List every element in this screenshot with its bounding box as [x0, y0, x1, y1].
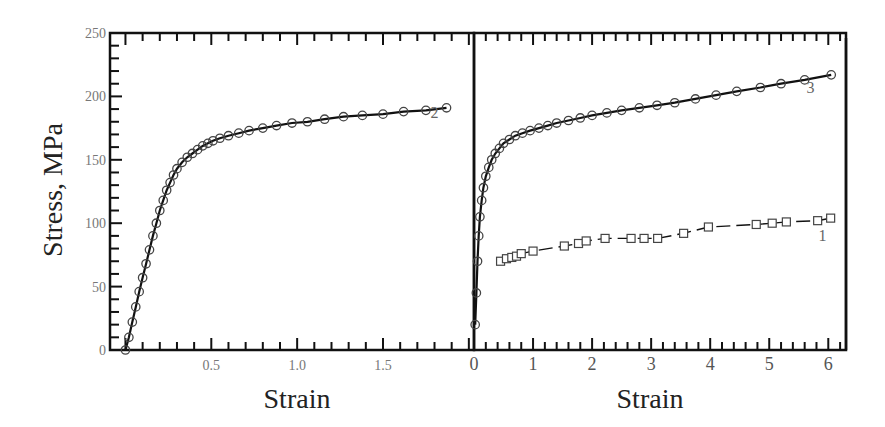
x-axis-title-left: Strain [264, 383, 331, 414]
x-tick-label: 5 [765, 354, 774, 374]
x-tick-label: 0 [470, 354, 479, 374]
y-axis-title: Stress, MPa [37, 123, 68, 257]
curve-label: 2 [431, 104, 439, 121]
x-tick-label: 0.5 [203, 358, 221, 373]
curve-label: 1 [818, 227, 826, 244]
data-point [680, 229, 688, 237]
x-tick-label: 2 [588, 354, 597, 374]
data-point [782, 218, 790, 226]
y-tick-label: 100 [85, 216, 106, 231]
data-point [654, 234, 662, 242]
left-panel: 0501001502002500.51.01.52 [85, 26, 474, 373]
data-point [517, 250, 525, 258]
data-point [640, 234, 648, 242]
x-tick-label: 3 [647, 354, 656, 374]
right-panel: 012345631 [470, 33, 847, 374]
data-point [814, 217, 822, 225]
y-tick-label: 150 [85, 153, 106, 168]
curve-label: 3 [807, 79, 815, 96]
x-tick-label: 1 [529, 354, 538, 374]
data-point [601, 234, 609, 242]
x-tick-label: 4 [706, 354, 715, 374]
data-point [560, 242, 568, 250]
x-tick-label: 6 [824, 354, 833, 374]
data-point [827, 214, 835, 222]
curve-2 [126, 108, 447, 350]
data-point [704, 223, 712, 231]
y-tick-label: 50 [92, 280, 106, 295]
x-tick-label: 1.0 [288, 358, 306, 373]
data-point [768, 219, 776, 227]
data-point [752, 220, 760, 228]
data-point [582, 237, 590, 245]
data-point [575, 239, 583, 247]
plot-frame [110, 33, 474, 350]
curve-1 [501, 218, 831, 261]
y-tick-label: 0 [99, 343, 106, 358]
data-point [627, 234, 635, 242]
plot-frame [474, 33, 846, 350]
y-tick-label: 200 [85, 89, 106, 104]
stress-strain-chart: 0501001502002500.51.01.52 012345631 Stre… [0, 0, 885, 427]
x-axis-title-right: Strain [617, 383, 684, 414]
data-point [529, 247, 537, 255]
curve-3 [475, 75, 831, 325]
y-tick-label: 250 [85, 26, 106, 41]
x-tick-label: 1.5 [374, 358, 392, 373]
